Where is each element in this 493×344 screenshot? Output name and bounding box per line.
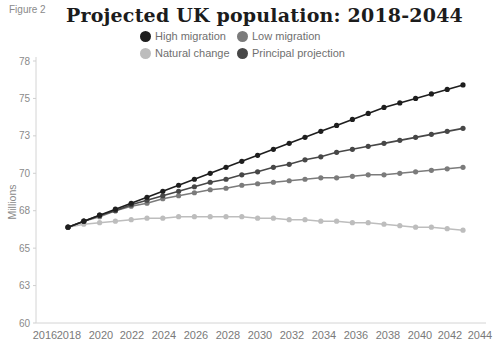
x-tick-label: 2018 <box>57 329 81 341</box>
data-point <box>208 180 213 185</box>
data-point <box>223 186 228 191</box>
data-point <box>413 225 418 230</box>
data-point <box>208 214 213 219</box>
y-tick-label: 78 <box>19 56 31 67</box>
y-tick-label: 63 <box>19 280 31 291</box>
data-point <box>366 172 371 177</box>
data-point <box>397 223 402 228</box>
x-tick-label: 2042 <box>438 329 462 341</box>
data-point <box>239 159 244 164</box>
data-point <box>223 214 228 219</box>
data-point <box>192 214 197 219</box>
data-point <box>445 129 450 134</box>
data-point <box>334 175 339 180</box>
data-point <box>144 216 149 221</box>
data-point <box>65 225 70 230</box>
x-tick-label: 2020 <box>89 329 113 341</box>
data-point <box>176 214 181 219</box>
data-point <box>460 126 465 131</box>
data-point <box>302 157 307 162</box>
data-point <box>113 207 118 212</box>
data-point <box>350 147 355 152</box>
data-point <box>255 169 260 174</box>
data-point <box>413 135 418 140</box>
data-point <box>176 189 181 194</box>
series-line-principal-projection <box>68 128 463 227</box>
data-point <box>176 193 181 198</box>
data-point <box>460 228 465 233</box>
data-point <box>239 214 244 219</box>
data-point <box>350 220 355 225</box>
data-point <box>381 222 386 227</box>
y-tick-label: 73 <box>19 130 31 141</box>
data-point <box>429 132 434 137</box>
data-point <box>97 220 102 225</box>
y-tick-label: 70 <box>19 168 31 179</box>
data-point <box>255 181 260 186</box>
y-tick-label: 75 <box>19 93 31 104</box>
data-point <box>366 220 371 225</box>
data-point <box>144 195 149 200</box>
plot-area: 6063656870737578201620182020202220242026… <box>0 0 493 344</box>
data-point <box>271 147 276 152</box>
data-point <box>223 177 228 182</box>
x-tick-label: 2030 <box>248 329 272 341</box>
data-point <box>366 144 371 149</box>
data-point <box>334 150 339 155</box>
data-point <box>271 180 276 185</box>
data-point <box>176 183 181 188</box>
data-point <box>302 135 307 140</box>
x-tick-label: 2022 <box>120 329 144 341</box>
data-point <box>287 178 292 183</box>
data-point <box>445 166 450 171</box>
data-point <box>318 154 323 159</box>
data-point <box>334 123 339 128</box>
x-tick-label: 2034 <box>312 329 336 341</box>
data-point <box>208 187 213 192</box>
x-tick-label: 2038 <box>376 329 400 341</box>
data-point <box>97 213 102 218</box>
data-point <box>271 165 276 170</box>
data-point <box>302 177 307 182</box>
x-tick-label: 2040 <box>408 329 432 341</box>
data-point <box>318 175 323 180</box>
data-point <box>160 189 165 194</box>
data-point <box>287 162 292 167</box>
data-point <box>350 174 355 179</box>
data-point <box>208 171 213 176</box>
data-point <box>429 91 434 96</box>
data-point <box>318 129 323 134</box>
data-point <box>81 219 86 224</box>
x-tick-label: 2036 <box>344 329 368 341</box>
data-point <box>334 219 339 224</box>
data-point <box>192 190 197 195</box>
x-tick-label: 2032 <box>280 329 304 341</box>
data-point <box>381 172 386 177</box>
data-point <box>445 226 450 231</box>
data-point <box>287 217 292 222</box>
data-point <box>302 217 307 222</box>
y-tick-label: 60 <box>19 318 31 329</box>
data-point <box>413 169 418 174</box>
data-point <box>160 216 165 221</box>
data-point <box>287 141 292 146</box>
data-point <box>429 168 434 173</box>
x-tick-label: 2028 <box>216 329 240 341</box>
data-point <box>381 105 386 110</box>
data-point <box>460 82 465 87</box>
data-point <box>397 100 402 105</box>
x-tick-label: 2044 <box>468 329 492 341</box>
data-point <box>445 87 450 92</box>
data-point <box>192 184 197 189</box>
data-point <box>397 138 402 143</box>
data-point <box>460 165 465 170</box>
data-point <box>255 153 260 158</box>
data-point <box>129 201 134 206</box>
data-point <box>239 172 244 177</box>
series-line-natural-change <box>68 217 463 230</box>
data-point <box>318 219 323 224</box>
data-point <box>223 165 228 170</box>
data-point <box>160 193 165 198</box>
y-tick-label: 65 <box>19 243 31 254</box>
data-point <box>429 225 434 230</box>
